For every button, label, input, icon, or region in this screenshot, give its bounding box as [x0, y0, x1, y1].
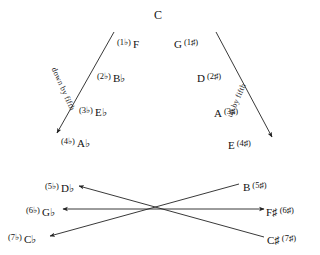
node-b: B(5♯) [243, 178, 267, 194]
note-name-g-flat: G♭ [42, 206, 55, 218]
node-a-flat: (4♭)A♭ [61, 134, 90, 150]
note-name-c-sharp: C♯ [267, 234, 280, 246]
sharp-count-2: (2♯) [207, 71, 221, 81]
node-e: E(4♯) [228, 136, 251, 152]
sharp-count-3: (3♯) [224, 106, 238, 116]
note-name-a-flat: A♭ [77, 137, 90, 149]
sharp-count-4: (4♯) [237, 138, 251, 148]
flat-count-4: (4♭) [61, 136, 75, 146]
flat-count-2: (2♭) [97, 71, 111, 81]
node-d-flat: (5♭)D♭ [45, 179, 74, 195]
sharp-count-5: (5♯) [252, 180, 266, 190]
node-b-flat: (2♭)B♭ [97, 69, 125, 85]
sharp-count-7: (7♯) [282, 233, 296, 243]
node-c-sharp: C♯(7♯) [267, 231, 296, 247]
note-name-g: G [174, 38, 182, 50]
node-e-flat: (3♭)E♭ [79, 103, 107, 119]
sharp-count-6: (6♯) [280, 205, 294, 215]
node-g: G(1♯) [174, 35, 198, 51]
sharp-count-1: (1♯) [184, 37, 198, 47]
flat-count-6: (6♭) [26, 205, 40, 215]
node-c-flat: (7♭)C♭ [8, 230, 36, 246]
note-name-f: F [133, 38, 139, 50]
node-g-flat: (6♭)G♭ [26, 203, 55, 219]
note-name-c-flat: C♭ [24, 233, 36, 245]
note-name-e-flat: E♭ [95, 106, 107, 118]
node-d: D(2♯) [197, 69, 221, 85]
flat-count-7: (7♭) [8, 232, 22, 242]
enharmonic-line-db-csharp [79, 186, 264, 237]
tonic-label-c: C [154, 9, 162, 21]
circle-of-fifths-diagram: F# horizontal double arrow --> C down by… [0, 0, 320, 255]
node-f: (1♭)F [117, 35, 139, 51]
note-name-f-sharp: F♯ [266, 206, 278, 218]
note-name-a: A [214, 107, 222, 119]
flat-count-1: (1♭) [117, 37, 131, 47]
enharmonic-line-cb-b [50, 184, 239, 236]
note-name-b-flat: B♭ [113, 72, 125, 84]
flat-count-3: (3♭) [79, 105, 93, 115]
note-name-e: E [228, 139, 235, 151]
note-name-d: D [197, 72, 205, 84]
node-f-sharp: F♯(6♯) [266, 203, 294, 219]
flat-count-5: (5♭) [45, 181, 59, 191]
note-name-b: B [243, 181, 250, 193]
node-a: A(3♯) [214, 104, 238, 120]
note-name-d-flat: D♭ [61, 182, 74, 194]
